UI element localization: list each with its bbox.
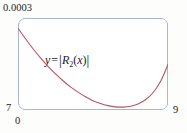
y-axis-max-label: 0.0003 [3,3,32,14]
figure-container: 0.0003 7 0 9 y=|R2(x)| [0,0,187,133]
equation-equals-sign: = [50,53,59,67]
plot-frame [18,18,168,110]
x-axis-max-label: 9 [173,105,178,116]
absolute-bar-close: | [87,53,90,68]
y-axis-min-label: 7 [6,103,11,114]
x-axis-min-label: 0 [15,116,20,127]
equation-annotation: y=|R2(x)| [45,54,89,69]
